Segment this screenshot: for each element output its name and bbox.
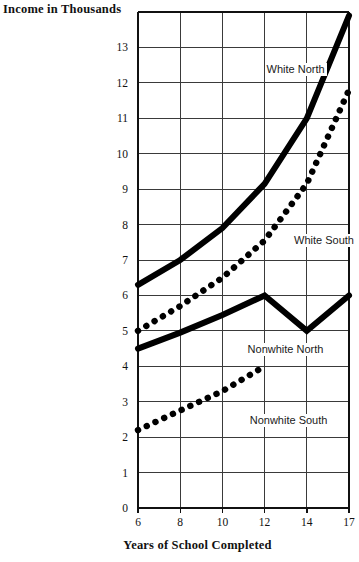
y-axis-tick-label: 10: [102, 148, 128, 160]
plot-canvas: [0, 0, 359, 562]
series-line-nonwhite-north: [138, 295, 349, 348]
y-axis-tick-label: 6: [102, 289, 128, 301]
series-label-nonwhite-north: Nonwhite North: [246, 343, 326, 356]
series-label-white-north: White North: [265, 63, 327, 76]
y-axis-tick-label: 2: [102, 431, 128, 443]
series-label-white-south: White South: [292, 234, 356, 247]
y-axis-tick-label: 4: [102, 360, 128, 372]
y-axis-tick-label: 0: [102, 502, 128, 514]
y-axis-tick-label: 8: [102, 219, 128, 231]
y-axis-tick-label: 3: [102, 396, 128, 408]
series-label-nonwhite-south: Nonwhite South: [248, 414, 330, 427]
y-axis-tick-label: 7: [102, 254, 128, 266]
x-axis-title: Years of School Completed: [0, 538, 359, 553]
series-line-white-south: [138, 90, 349, 331]
x-axis-tick-label: 17: [343, 516, 355, 528]
y-axis-tick-label: 13: [102, 41, 128, 53]
x-axis-tick-label: 6: [135, 516, 141, 528]
x-axis-tick-label: 14: [301, 516, 313, 528]
y-axis-tick-label: 5: [102, 325, 128, 337]
y-axis-tick-label: 12: [102, 77, 128, 89]
y-axis-tick-label: 1: [102, 467, 128, 479]
series-lines: [138, 16, 349, 431]
x-axis-tick-label: 12: [259, 516, 271, 528]
y-axis-tick-label: 11: [102, 112, 128, 124]
series-line-nonwhite-south: [138, 366, 265, 430]
x-axis-tick-label: 8: [177, 516, 183, 528]
y-axis-tick-label: 9: [102, 183, 128, 195]
chart-figure: Income in Thousands Years of School Comp…: [0, 0, 359, 562]
x-axis-tick-label: 10: [217, 516, 229, 528]
